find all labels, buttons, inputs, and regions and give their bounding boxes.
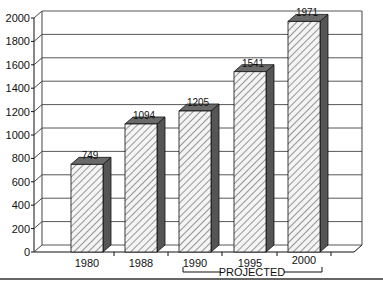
bar-chart: 0200400600800100012001400160018002000 74… <box>0 0 383 284</box>
bar-value-label: 1094 <box>133 110 156 121</box>
x-tick-label: 1990 <box>183 257 207 269</box>
x-tick-label: 2000 <box>292 254 316 266</box>
y-tick-label: 1000 <box>6 129 30 141</box>
bar-value-label: 749 <box>82 150 99 161</box>
y-tick-label: 1400 <box>6 82 30 94</box>
bar-1995: 1541 <box>234 58 274 252</box>
bars: 7491094120515411971 <box>71 7 328 252</box>
bar-1980: 749 <box>71 150 111 252</box>
y-axis: 0200400600800100012001400160018002000 <box>6 12 34 258</box>
y-tick-label: 1200 <box>6 106 30 118</box>
bar-1990: 1205 <box>179 97 219 252</box>
y-tick-label: 200 <box>12 223 30 235</box>
x-axis: 19801988199019952000 <box>75 252 331 269</box>
bar-value-label: 1541 <box>242 58 265 69</box>
y-tick-label: 800 <box>12 152 30 164</box>
bar-2000: 1971 <box>288 7 328 252</box>
y-tick-label: 1800 <box>6 35 30 47</box>
x-tick-label: 1980 <box>75 257 99 269</box>
y-tick-label: 1600 <box>6 59 30 71</box>
y-tick-label: 400 <box>12 199 30 211</box>
bar-1988: 1094 <box>125 110 165 252</box>
y-tick-label: 0 <box>24 246 30 258</box>
projected-label: PROJECTED <box>219 266 286 278</box>
bar-value-label: 1205 <box>187 97 210 108</box>
x-tick-label: 1988 <box>129 257 153 269</box>
y-tick-label: 2000 <box>6 12 30 24</box>
bar-value-label: 1971 <box>296 7 319 18</box>
y-tick-label: 600 <box>12 176 30 188</box>
